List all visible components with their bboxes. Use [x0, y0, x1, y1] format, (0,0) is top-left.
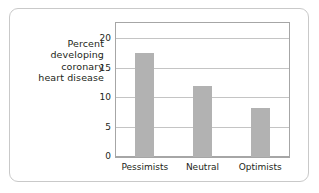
y-tick-label-5: 5	[105, 122, 111, 132]
y-tick-label-0: 0	[105, 151, 111, 161]
bar-neutral	[193, 86, 212, 157]
y-axis-title: Percent developing coronary heart diseas…	[18, 38, 104, 84]
x-tick-label-optimists: Optimists	[239, 162, 282, 172]
y-tick-label-10: 10	[100, 92, 111, 102]
plot-surface: 05101520PessimistsNeutralOptimists	[116, 23, 289, 157]
bar-pessimists	[135, 53, 154, 157]
bar-optimists	[251, 108, 270, 157]
gridline-y-20: 20	[116, 38, 289, 39]
y-axis-title-line-1: Percent	[18, 38, 104, 49]
x-tick-label-neutral: Neutral	[186, 162, 219, 172]
y-axis-title-line-2: developing	[18, 49, 104, 60]
x-tick-label-pessimists: Pessimists	[121, 162, 168, 172]
y-tick-label-20: 20	[100, 33, 111, 43]
chart-figure: Percent developing coronary heart diseas…	[0, 0, 319, 193]
plot-area: 05101520PessimistsNeutralOptimists	[115, 22, 290, 158]
y-axis-title-line-4: heart disease	[18, 72, 104, 83]
y-tick-label-15: 15	[100, 63, 111, 73]
y-axis-title-line-3: coronary	[18, 61, 104, 72]
